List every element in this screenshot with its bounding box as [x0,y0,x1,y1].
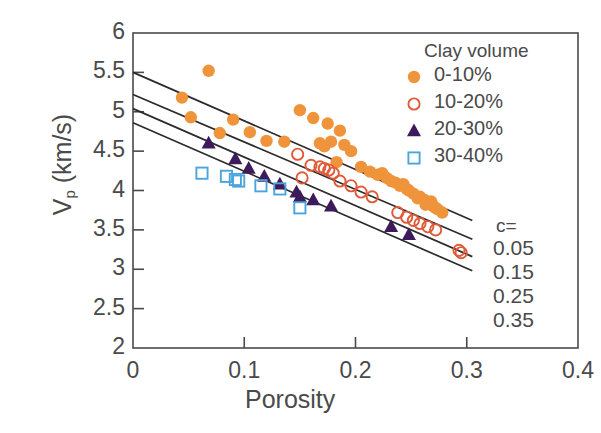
data-point [260,135,272,147]
data-point [384,219,398,232]
data-point [227,113,239,125]
data-point [176,91,188,103]
trend-label-0.15: 0.15 [493,260,534,284]
data-point [214,127,226,139]
data-point [397,178,409,190]
data-point [242,161,256,174]
trend-label-0.25: 0.25 [493,284,534,308]
data-point [345,145,357,157]
legend-item-30-40%[interactable]: 30-40% [434,144,503,167]
data-point [185,111,197,123]
data-point [325,135,337,147]
chart-figure: Vp (km/s) Porosity 22.533.544.555.56 00.… [0,0,601,433]
trend-label-0.05: 0.05 [493,236,534,260]
data-point [294,202,305,213]
data-point [255,180,266,191]
data-point [334,124,346,136]
data-point [324,199,338,212]
legend-title: Clay volume [424,40,529,62]
data-point [402,227,416,240]
legend-item-20-30%[interactable]: 20-30% [434,117,503,140]
data-point [292,149,303,160]
data-point [196,168,207,179]
data-point [429,202,441,214]
data-point [321,117,333,129]
trend-label-0.35: 0.35 [493,308,534,332]
legend-item-10-20%[interactable]: 10-20% [434,90,503,113]
series-20-30% [202,136,416,240]
data-point [244,126,256,138]
data-point [401,212,412,223]
data-point [202,65,214,77]
data-point [228,152,242,165]
data-point [408,215,419,226]
data-point [278,135,290,147]
legend-item-0-10%[interactable]: 0-10% [434,63,492,86]
data-point [307,112,319,124]
trend-label-header: c= [496,215,517,237]
data-point [294,104,306,116]
data-point [202,136,216,149]
